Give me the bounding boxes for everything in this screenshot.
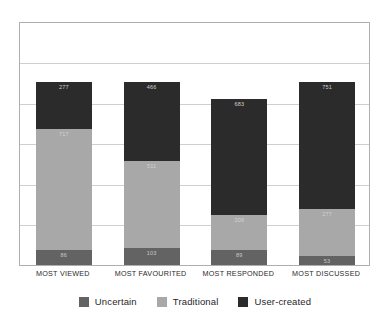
bar-segment-value: 206 [234,215,244,224]
bar-segment-user-created[interactable]: 683 [211,99,267,215]
bar-segment-value: 86 [61,250,68,259]
legend-swatch-traditional-icon [157,297,167,307]
bar-segment-uncertain[interactable]: 53 [299,256,355,265]
bar-segment-uncertain[interactable]: 86 [36,250,92,265]
legend-swatch-user-created-icon [238,297,248,307]
bar-segment-value: 717 [59,129,69,138]
bar-segment-value: 89 [236,250,243,259]
legend-item-user-created[interactable]: User-created [238,296,311,307]
bar-segment-value: 466 [147,82,157,91]
category-label: MOST FAVOURITED [107,269,195,278]
bar-segment-user-created[interactable]: 751 [299,82,355,209]
bar-stack: 68320689 [211,99,267,265]
bar-segment-uncertain[interactable]: 89 [211,250,267,265]
legend-label-traditional: Traditional [173,296,219,307]
category-axis: MOST VIEWEDMOST FAVOURITEDMOST RESPONDED… [19,269,370,283]
bar-group[interactable]: 27771786 [36,82,92,265]
legend-label-user-created: User-created [254,296,311,307]
bar-segment-value: 511 [147,161,156,170]
bar-segment-value: 103 [147,248,157,257]
legend-swatch-uncertain-icon [79,297,89,307]
bars-layer: 277717864665111036832068975127753 [20,23,369,265]
plot-area: 277717864665111036832068975127753 [19,22,370,266]
bar-segment-value: 277 [322,209,332,218]
bar-segment-traditional[interactable]: 511 [124,161,180,248]
stacked-bar-chart: 277717864665111036832068975127753 MOST V… [0,0,390,324]
chart-legend: Uncertain Traditional User-created [0,296,390,307]
bar-stack: 75127753 [299,82,355,265]
bar-stack: 27771786 [36,82,92,265]
bar-segment-value: 53 [324,256,331,265]
bar-segment-value: 683 [234,99,244,108]
legend-label-uncertain: Uncertain [95,296,137,307]
legend-item-uncertain[interactable]: Uncertain [79,296,137,307]
bar-segment-value: 751 [322,82,332,91]
bar-segment-traditional[interactable]: 277 [299,209,355,256]
bar-group[interactable]: 68320689 [211,99,267,265]
bar-group[interactable]: 75127753 [299,82,355,265]
bar-segment-traditional[interactable]: 717 [36,129,92,250]
bar-stack: 466511103 [124,82,180,265]
category-label: MOST DISCUSSED [282,269,370,278]
bar-segment-uncertain[interactable]: 103 [124,248,180,265]
bar-segment-user-created[interactable]: 277 [36,82,92,129]
legend-item-traditional[interactable]: Traditional [157,296,219,307]
bar-group[interactable]: 466511103 [124,82,180,265]
category-label: MOST VIEWED [19,269,107,278]
bar-segment-traditional[interactable]: 206 [211,215,267,250]
bar-segment-value: 277 [59,82,69,91]
category-label: MOST RESPONDED [195,269,283,278]
bar-segment-user-created[interactable]: 466 [124,82,180,161]
